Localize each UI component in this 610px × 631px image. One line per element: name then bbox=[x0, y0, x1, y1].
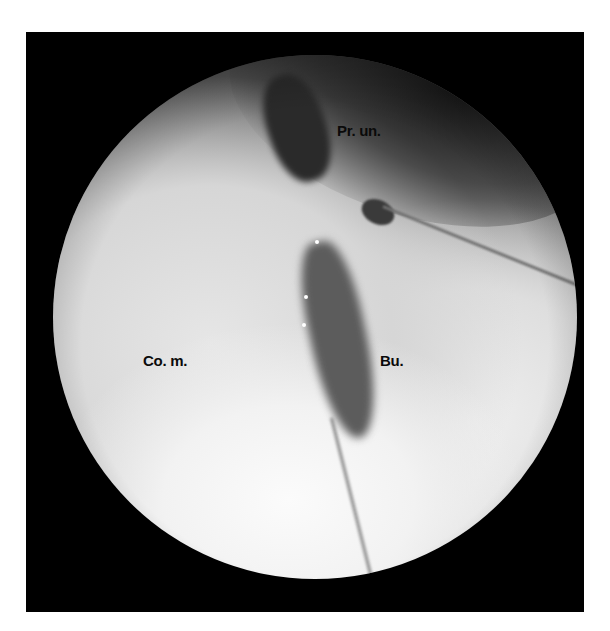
label-bu: Bu. bbox=[380, 352, 403, 369]
endoscope-view bbox=[53, 55, 577, 579]
vignette bbox=[53, 55, 577, 579]
label-co-m: Co. m. bbox=[143, 352, 187, 369]
label-pr-un: Pr. un. bbox=[337, 122, 381, 139]
image-frame: Pr. un. Co. m. Bu. bbox=[26, 32, 584, 612]
